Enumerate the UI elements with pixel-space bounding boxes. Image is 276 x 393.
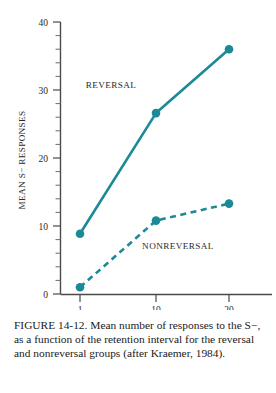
y-tick-label-30: 30 (39, 86, 49, 96)
nonreversal-point-1 (76, 283, 85, 292)
series-reversal (76, 45, 234, 238)
figure-caption: FIGURE 14-12. Mean number of responses t… (14, 318, 266, 361)
y-tick-label-0: 0 (43, 290, 48, 300)
y-axis-title: MEAN S− RESPONSES (17, 111, 27, 210)
y-axis: 0 10 20 30 40 MEAN S− RESPONSES (17, 18, 61, 300)
reversal-point-1 (76, 230, 85, 239)
y-tick-label-40: 40 (39, 18, 49, 28)
chart-plot-area: 0 10 20 30 40 MEAN S− RESPONSES 1 10 20 (0, 0, 276, 310)
y-tick-label-20: 20 (39, 154, 49, 164)
series-label-reversal: REVERSAL (86, 80, 137, 90)
reversal-point-20 (225, 45, 234, 54)
figure-container: 0 10 20 30 40 MEAN S− RESPONSES 1 10 20 (0, 0, 276, 393)
line-chart: 0 10 20 30 40 MEAN S− RESPONSES 1 10 20 (0, 0, 276, 310)
series-label-nonreversal: NONREVERSAL (142, 241, 214, 251)
x-tick-label-10: 10 (151, 305, 161, 310)
x-tick-label-20: 20 (224, 305, 234, 310)
reversal-line (80, 49, 229, 234)
nonreversal-point-10 (152, 216, 161, 225)
x-axis: 1 10 20 (61, 295, 273, 311)
y-tick-label-10: 10 (39, 222, 49, 232)
nonreversal-point-20 (225, 199, 234, 208)
reversal-point-10 (152, 109, 161, 118)
x-tick-label-1: 1 (78, 305, 83, 310)
